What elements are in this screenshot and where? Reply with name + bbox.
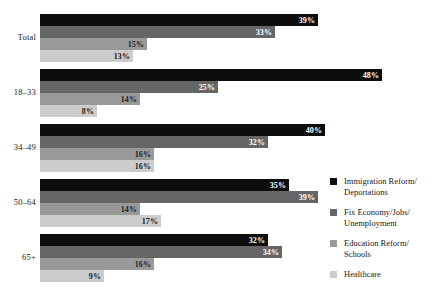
- bar-value-label: 39%: [299, 193, 318, 202]
- bar-value-label: 34%: [263, 248, 282, 257]
- legend-swatch-icon: [330, 209, 337, 216]
- legend-item[interactable]: Fix Economy/Jobs/ Unemployment: [330, 207, 438, 229]
- bar-row: 40%: [40, 124, 330, 136]
- bar-row: 16%: [40, 148, 330, 160]
- bar-value-label: 48%: [363, 71, 382, 80]
- bar-value-label: 40%: [306, 126, 325, 135]
- chart-legend: Immigration Reform/ DeportationsFix Econ…: [330, 176, 438, 289]
- bar-row: 8%: [40, 105, 330, 117]
- bar: 14%: [40, 93, 140, 105]
- legend-label: Immigration Reform/ Deportations: [344, 176, 438, 198]
- bar: 16%: [40, 258, 154, 270]
- bar-row: 14%: [40, 93, 330, 105]
- category-label: 65+: [0, 252, 36, 262]
- plot-area: Total39%33%15%13%18–3348%25%14%8%34–4940…: [0, 0, 330, 296]
- bar-value-label: 14%: [121, 95, 140, 104]
- bar: 16%: [40, 160, 154, 172]
- bar-stack: 39%33%15%13%: [40, 14, 330, 62]
- legend-label: Healthcare: [344, 269, 438, 280]
- bar-stack: 35%39%14%17%: [40, 179, 330, 227]
- legend-swatch-icon: [330, 178, 337, 185]
- bar-value-label: 17%: [142, 217, 161, 226]
- bar-row: 17%: [40, 215, 330, 227]
- bar-value-label: 15%: [128, 40, 147, 49]
- bar-row: 16%: [40, 160, 330, 172]
- bar-chart: Total39%33%15%13%18–3348%25%14%8%34–4940…: [0, 0, 438, 296]
- category-label: 34–49: [0, 142, 36, 152]
- bar-stack: 40%32%16%16%: [40, 124, 330, 172]
- legend-label: Education Reform/ Schools: [344, 238, 438, 260]
- bar: 8%: [40, 105, 97, 117]
- bar-value-label: 9%: [89, 272, 104, 281]
- bar: 48%: [40, 69, 382, 81]
- bar: 17%: [40, 215, 161, 227]
- legend-item[interactable]: Healthcare: [330, 269, 438, 280]
- bar: 14%: [40, 203, 140, 215]
- bar-value-label: 39%: [299, 16, 318, 25]
- bar-row: 35%: [40, 179, 330, 191]
- bar: 32%: [40, 234, 268, 246]
- bar-value-label: 35%: [270, 181, 289, 190]
- bar-row: 32%: [40, 136, 330, 148]
- legend-swatch-icon: [330, 240, 337, 247]
- bar-row: 9%: [40, 270, 330, 282]
- bar-value-label: 25%: [199, 83, 218, 92]
- bar-stack: 48%25%14%8%: [40, 69, 330, 117]
- bar: 34%: [40, 246, 282, 258]
- bar: 35%: [40, 179, 289, 191]
- bar: 9%: [40, 270, 104, 282]
- legend-swatch-icon: [330, 271, 337, 278]
- bar-row: 39%: [40, 14, 330, 26]
- category-label: 50–64: [0, 197, 36, 207]
- bar: 13%: [40, 50, 133, 62]
- bar-row: 32%: [40, 234, 330, 246]
- bar-value-label: 32%: [249, 236, 268, 245]
- bar-row: 15%: [40, 38, 330, 50]
- legend-label: Fix Economy/Jobs/ Unemployment: [344, 207, 438, 229]
- bar: 39%: [40, 191, 318, 203]
- bar-value-label: 8%: [82, 107, 97, 116]
- bar: 25%: [40, 81, 218, 93]
- bar-row: 13%: [40, 50, 330, 62]
- bar-value-label: 16%: [135, 150, 154, 159]
- bar-row: 48%: [40, 69, 330, 81]
- category-label: Total: [0, 32, 36, 42]
- bar-value-label: 13%: [114, 52, 133, 61]
- legend-item[interactable]: Immigration Reform/ Deportations: [330, 176, 438, 198]
- bar: 33%: [40, 26, 275, 38]
- bar: 40%: [40, 124, 325, 136]
- bar-value-label: 32%: [249, 138, 268, 147]
- bar-row: 33%: [40, 26, 330, 38]
- bar-value-label: 16%: [135, 162, 154, 171]
- bar-stack: 32%34%16%9%: [40, 234, 330, 282]
- category-label: 18–33: [0, 87, 36, 97]
- bar-row: 14%: [40, 203, 330, 215]
- bar-row: 34%: [40, 246, 330, 258]
- bar-row: 39%: [40, 191, 330, 203]
- legend-item[interactable]: Education Reform/ Schools: [330, 238, 438, 260]
- bar-value-label: 33%: [256, 28, 275, 37]
- bar-value-label: 16%: [135, 260, 154, 269]
- bar-row: 25%: [40, 81, 330, 93]
- bar: 32%: [40, 136, 268, 148]
- bar-value-label: 14%: [121, 205, 140, 214]
- bar: 15%: [40, 38, 147, 50]
- bar: 16%: [40, 148, 154, 160]
- bar-row: 16%: [40, 258, 330, 270]
- bar: 39%: [40, 14, 318, 26]
